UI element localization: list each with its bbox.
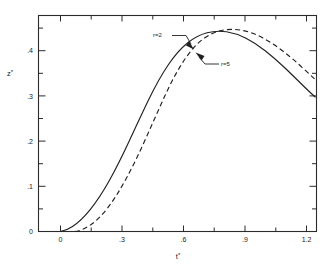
x-axis-title-superscript: * <box>178 252 181 258</box>
x-tick-labels: 0 .3 .6 .9 1.2 <box>59 236 312 243</box>
y-tick-label-1: .1 <box>27 183 33 190</box>
y-tick-label-4: .4 <box>27 47 33 54</box>
x-tick-label-1: .3 <box>119 236 125 243</box>
x-tick-label-2: .6 <box>181 236 187 243</box>
annotation-r5-arrow-icon <box>196 53 205 61</box>
x-tick-label-4: 1.2 <box>302 236 312 243</box>
chart-figure: 0 .3 .6 .9 1.2 0 .1 .2 .3 .4 z* t* <box>0 0 336 269</box>
right-axis-ticks <box>310 28 317 231</box>
x-axis-major-ticks <box>61 226 307 232</box>
annotation-r5-label: r=5 <box>221 61 231 67</box>
y-tick-label-2: .2 <box>27 138 33 145</box>
y-tick-labels: 0 .1 .2 .3 .4 <box>27 47 33 235</box>
svg-text:t*: t* <box>176 252 181 262</box>
top-axis-ticks <box>61 16 307 22</box>
y-axis-major-ticks <box>39 51 46 232</box>
x-axis-title: t* <box>176 252 181 262</box>
y-axis-title: z* <box>7 69 14 79</box>
annotation-r5: r=5 <box>196 53 231 68</box>
series-curve-r5 <box>61 31 316 231</box>
annotation-r2-label: r=2 <box>153 32 163 38</box>
series-curve-r2 <box>75 29 315 231</box>
axes-frame <box>39 16 317 232</box>
y-axis-title-superscript: * <box>11 69 14 75</box>
x-tick-label-3: .9 <box>242 236 248 243</box>
annotation-r2: r=2 <box>153 32 194 50</box>
x-tick-label-0: 0 <box>59 236 63 243</box>
svg-text:z*: z* <box>7 69 14 79</box>
y-tick-label-3: .3 <box>27 93 33 100</box>
y-axis-minor-ticks <box>39 28 44 209</box>
y-tick-label-0: 0 <box>29 228 33 235</box>
chart-plot-area: 0 .3 .6 .9 1.2 0 .1 .2 .3 .4 z* t* <box>0 0 336 269</box>
